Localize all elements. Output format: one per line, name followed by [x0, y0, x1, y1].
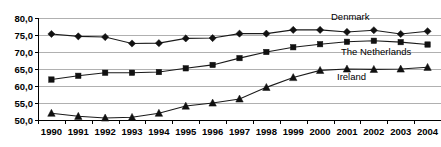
data-point-marker [210, 62, 215, 67]
data-point-marker [343, 28, 350, 35]
data-point-marker [102, 33, 109, 40]
data-point-marker [425, 42, 430, 47]
data-point-marker [156, 69, 161, 74]
x-axis-tick-label: 2000 [310, 126, 331, 137]
data-point-marker [102, 70, 107, 75]
data-point-marker [317, 41, 322, 46]
data-point-marker [264, 49, 269, 54]
x-axis-tick-label: 1995 [175, 126, 197, 137]
data-point-marker [236, 30, 243, 37]
x-axis-tick-label: 1998 [256, 126, 277, 137]
y-axis-tick-label: 55,0 [15, 98, 34, 109]
series-label-denmark: Denmark [331, 11, 370, 22]
data-point-marker [128, 40, 135, 47]
data-point-marker [48, 30, 55, 37]
x-axis-tick-label: 1996 [202, 126, 223, 137]
x-axis-tick-label: 2003 [390, 126, 411, 137]
data-point-marker [398, 39, 403, 44]
y-axis-tick-label: 60,0 [15, 81, 34, 92]
x-axis-tick-label: 1993 [121, 126, 142, 137]
data-point-marker [155, 40, 162, 47]
data-point-marker [48, 109, 55, 116]
x-axis-tick-label: 1990 [41, 126, 62, 137]
data-point-marker [424, 28, 431, 35]
x-axis-tick-label: 2001 [336, 126, 358, 137]
data-point-marker [290, 26, 297, 33]
x-axis-tick-label: 1994 [148, 126, 170, 137]
data-point-marker [371, 38, 376, 43]
data-point-marker [129, 70, 134, 75]
data-point-marker [370, 27, 377, 34]
data-point-marker [236, 95, 243, 102]
data-point-marker [317, 26, 324, 33]
y-axis-tick-label: 70,0 [15, 47, 34, 58]
line-chart: 50,055,060,065,070,075,080,0 19901991199… [0, 0, 441, 147]
x-axis-tick-label: 2004 [417, 126, 439, 137]
series-markers-group [48, 26, 432, 121]
x-axis-tick-label: 1999 [283, 126, 304, 137]
y-axis-tick-label: 50,0 [15, 115, 34, 126]
y-axis-tick-marks [35, 19, 38, 121]
data-point-marker [76, 73, 81, 78]
y-axis-tick-label: 80,0 [15, 13, 34, 24]
x-axis-tick-label: 1992 [95, 126, 116, 137]
y-axis-tick-label: 75,0 [15, 30, 34, 41]
series-label-ireland: Ireland [337, 71, 366, 82]
data-point-marker [344, 39, 349, 44]
data-point-marker [49, 77, 54, 82]
x-axis-tick-label: 1991 [68, 126, 90, 137]
x-axis-tick-label: 2002 [363, 126, 384, 137]
data-point-marker [291, 45, 296, 50]
data-point-marker [183, 66, 188, 71]
data-point-marker [263, 30, 270, 37]
x-axis-tick-label: 1997 [229, 126, 250, 137]
y-axis-tick-label: 65,0 [15, 64, 34, 75]
data-point-marker [397, 30, 404, 37]
data-point-marker [237, 55, 242, 60]
chart-canvas: 50,055,060,065,070,075,080,0 19901991199… [0, 0, 441, 147]
data-point-marker [75, 33, 82, 40]
x-axis-tick-labels: 1990199119921993199419951996199719981999… [41, 126, 439, 137]
data-point-marker [424, 63, 431, 70]
series-label-the-netherlands: The Netherlands [341, 46, 411, 57]
y-axis-tick-labels: 50,055,060,065,070,075,080,0 [15, 13, 34, 126]
